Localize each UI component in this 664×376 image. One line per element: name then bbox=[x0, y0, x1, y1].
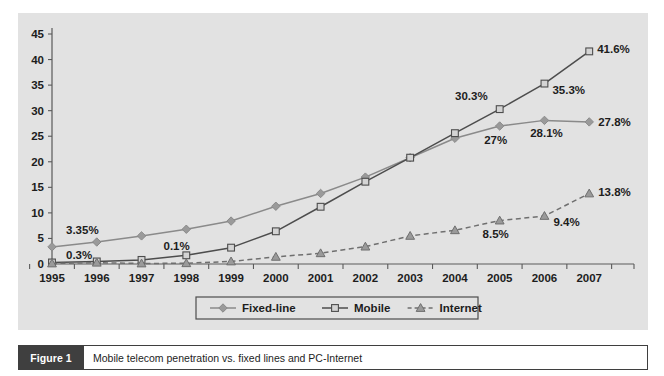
data-point-diamond bbox=[137, 232, 145, 240]
x-axis-tick-label: 2004 bbox=[442, 272, 468, 284]
data-point-square bbox=[541, 80, 548, 87]
chart-plot-area: 0510152025303540451995199619971998199920… bbox=[18, 13, 648, 330]
data-point-diamond bbox=[182, 225, 190, 233]
data-point-diamond bbox=[227, 217, 235, 225]
data-point-triangle bbox=[271, 252, 280, 260]
data-label: 41.6% bbox=[597, 43, 630, 55]
data-point-square bbox=[586, 48, 593, 55]
x-axis-tick-label: 2007 bbox=[576, 272, 602, 284]
y-axis-tick-label: 5 bbox=[38, 232, 45, 244]
x-axis-tick-label: 1999 bbox=[218, 272, 244, 284]
y-axis-tick-label: 25 bbox=[31, 130, 44, 142]
x-axis-tick-label: 2002 bbox=[353, 272, 379, 284]
figure-caption-bar: Figure 1 Mobile telecom penetration vs. … bbox=[18, 345, 648, 370]
data-point-square bbox=[332, 305, 339, 312]
x-axis-tick-label: 1995 bbox=[39, 272, 65, 284]
data-label: 0.3% bbox=[66, 249, 92, 261]
y-axis-tick-label: 20 bbox=[31, 156, 44, 168]
y-axis-tick-label: 45 bbox=[31, 28, 44, 40]
data-point-square bbox=[407, 154, 414, 161]
data-point-diamond bbox=[93, 238, 101, 246]
x-axis-tick-label: 2003 bbox=[397, 272, 423, 284]
data-point-triangle bbox=[406, 231, 415, 239]
data-label: 9.4% bbox=[553, 216, 579, 228]
x-axis-tick-label: 1997 bbox=[129, 272, 155, 284]
data-label: 27% bbox=[484, 134, 507, 146]
data-point-diamond bbox=[495, 122, 503, 130]
data-label: 3.35% bbox=[66, 224, 99, 236]
x-axis-tick-label: 1996 bbox=[84, 272, 110, 284]
y-axis-tick-label: 30 bbox=[31, 105, 44, 117]
data-label: 0.1% bbox=[164, 240, 190, 252]
data-point-diamond bbox=[540, 116, 548, 124]
y-axis-tick-label: 35 bbox=[31, 79, 44, 91]
data-point-square bbox=[272, 228, 279, 235]
data-label: 8.5% bbox=[483, 228, 509, 240]
x-axis-tick-label: 2005 bbox=[487, 272, 513, 284]
data-point-diamond bbox=[316, 189, 324, 197]
figure-number-label: Figure 1 bbox=[18, 345, 84, 370]
data-point-diamond bbox=[48, 243, 56, 251]
data-point-triangle bbox=[540, 212, 549, 220]
data-label: 28.1% bbox=[530, 127, 563, 139]
data-point-square bbox=[228, 244, 235, 251]
y-axis-tick-label: 40 bbox=[31, 54, 44, 66]
data-point-square bbox=[496, 106, 503, 113]
x-axis-tick-label: 2000 bbox=[263, 272, 289, 284]
data-label: 30.3% bbox=[455, 90, 488, 102]
data-point-square bbox=[362, 178, 369, 185]
data-label: 35.3% bbox=[552, 84, 585, 96]
y-axis-tick-label: 15 bbox=[31, 181, 44, 193]
legend-label-internet: Internet bbox=[440, 302, 482, 314]
data-label: 13.8% bbox=[598, 186, 631, 198]
x-axis-tick-label: 1998 bbox=[174, 272, 200, 284]
y-axis-tick-label: 10 bbox=[31, 207, 44, 219]
line-chart: 0510152025303540451995199619971998199920… bbox=[18, 13, 648, 330]
data-label: 27.8% bbox=[598, 116, 631, 128]
data-point-triangle bbox=[585, 189, 594, 197]
data-point-diamond bbox=[272, 202, 280, 210]
data-point-square bbox=[317, 203, 324, 210]
data-point-square bbox=[183, 252, 190, 259]
legend-label-fixed-line: Fixed-line bbox=[242, 302, 296, 314]
x-axis-tick-label: 2001 bbox=[308, 272, 334, 284]
x-axis-tick-label: 2006 bbox=[532, 272, 558, 284]
legend-label-mobile: Mobile bbox=[354, 302, 390, 314]
data-point-diamond bbox=[585, 118, 593, 126]
y-axis-tick-label: 0 bbox=[38, 258, 44, 270]
figure-caption-text: Mobile telecom penetration vs. fixed lin… bbox=[84, 345, 648, 370]
data-point-square bbox=[452, 130, 459, 137]
figure-container: 0510152025303540451995199619971998199920… bbox=[0, 0, 664, 376]
